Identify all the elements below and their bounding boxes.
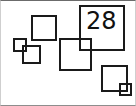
square-label-28: 28 <box>86 9 117 33</box>
square-small-left <box>22 45 41 64</box>
square-upper-left <box>31 15 57 41</box>
figure-canvas: 28 <box>0 0 136 106</box>
square-tiny-bottom-right <box>119 83 132 96</box>
